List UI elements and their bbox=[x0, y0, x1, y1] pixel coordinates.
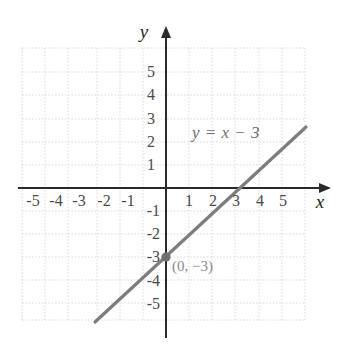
y-tick-label: -3 bbox=[147, 248, 160, 265]
point-annotation: (0, −3) bbox=[172, 258, 213, 275]
y-axis-label: y bbox=[138, 21, 149, 42]
y-tick-label: 5 bbox=[147, 63, 155, 80]
equation-annotation: y = x − 3 bbox=[190, 123, 260, 142]
x-tick-label: -4 bbox=[49, 192, 62, 209]
y-tick-label: 3 bbox=[147, 110, 155, 127]
coordinate-graph-figure: y x -5 -4 -3 -2 -1 1 2 3 4 5 5 4 3 2 1 -… bbox=[0, 0, 339, 346]
plot-line-y-equals-x-minus-3 bbox=[95, 127, 306, 322]
x-tick-label: 2 bbox=[209, 192, 217, 209]
y-tick-label: 2 bbox=[147, 133, 155, 150]
y-axis bbox=[161, 26, 171, 338]
x-tick-label: -3 bbox=[72, 192, 85, 209]
graph-canvas: y x -5 -4 -3 -2 -1 1 2 3 4 5 5 4 3 2 1 -… bbox=[0, 0, 339, 346]
y-tick-label: -2 bbox=[147, 225, 160, 242]
x-axis-label: x bbox=[315, 191, 325, 212]
x-tick-label: 4 bbox=[256, 192, 264, 209]
y-tick-label: 4 bbox=[147, 86, 155, 103]
x-tick-label: -1 bbox=[121, 192, 134, 209]
x-tick-label: -5 bbox=[26, 192, 39, 209]
x-tick-label: 1 bbox=[185, 192, 193, 209]
y-tick-label: -5 bbox=[147, 295, 160, 312]
x-tick-label: 3 bbox=[232, 192, 240, 209]
y-tick-label: 1 bbox=[147, 156, 155, 173]
intercept-point-marker bbox=[161, 252, 170, 261]
y-tick-label: -1 bbox=[147, 202, 160, 219]
x-tick-label: -2 bbox=[97, 192, 110, 209]
y-tick-label: -4 bbox=[147, 272, 160, 289]
x-tick-label: 5 bbox=[279, 192, 287, 209]
grid-lines bbox=[22, 48, 305, 320]
